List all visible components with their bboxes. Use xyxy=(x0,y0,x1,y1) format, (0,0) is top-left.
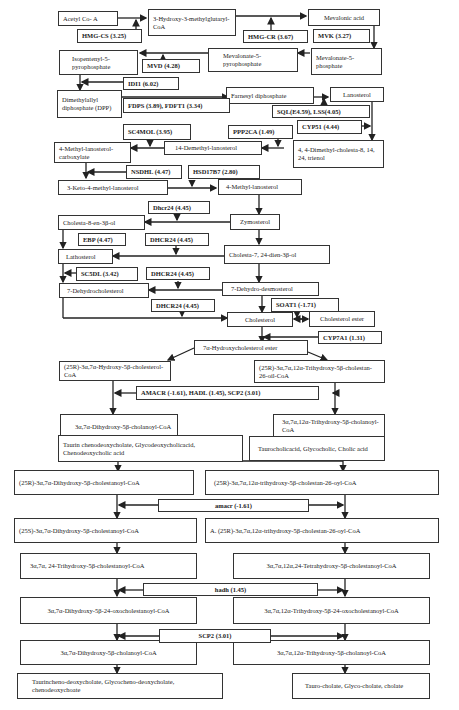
node-cholesta-7-24-dien: Cholesta-7, 24-dien-3β-ol xyxy=(224,245,330,264)
node-7-dehydro-desmosterol: 7-Dehydro-desmosterol xyxy=(222,282,319,296)
node-7-dehydrocholesterol: 7-Dehydrocholesterol xyxy=(59,283,149,298)
enzyme-mvk: MVK (3.27) xyxy=(313,29,370,43)
enzyme-sql-lss: SQL(E4.59), LSS(4.05) xyxy=(272,105,370,118)
enzyme-fdps-fdft1: FDPS (3.89), FDFT1 (3.34) xyxy=(123,98,230,113)
node-mevalonic-acid: Mevalonic acid xyxy=(308,9,380,26)
node-mevalonate-5-phosphate: Mevalonate-5-phosphate xyxy=(311,48,382,75)
node-dihydroxy-24-oxocholestanoyl-coa: 3α,7α-Dihydroxy-5β-24-oxocholestanoyl-Co… xyxy=(20,597,197,624)
node-25r-trihydroxy-cholestan-26-oil-coa: (25R)-3α,7α,12α-Trihydroxy-5β-cholestan-… xyxy=(254,360,385,383)
node-trihydroxy-24-cholestanoyl-coa: 3α,7α, 24-Trihydroxy-5β-cholestanoyl-CoA xyxy=(20,553,197,579)
enzyme-scp2: SCP2 (3.01) xyxy=(159,629,271,643)
enzyme-sc5dl: SC5DL (3.42) xyxy=(76,267,138,281)
enzyme-amacr-hadl-scp2: AMACR (-1.61), HADL (1.45), SCP2 (3.01) xyxy=(136,386,319,400)
node-dihydroxy-cholanoyl-coa-2: 3α,7α-Dihydroxy-5β-cholanoyl-CoA xyxy=(20,640,197,665)
node-hmg-coa: 3-Hydroxy-3-methylglutaryl-CoA xyxy=(148,9,236,36)
node-farnesyl-diphosphate: Farnesyl diphosphate xyxy=(226,87,314,104)
enzyme-hmg-cs: HMG-CS (3.25) xyxy=(77,29,142,43)
enzyme-amacr: amacr (-1.61) xyxy=(158,499,309,512)
node-taurin-chenodeoxycholate: Taurin chenodeoxycholate, Glycodeoxychol… xyxy=(58,435,243,462)
node-a-25r-trihydroxy-cholestan-26-oyl-coa: A. (25R)-3α,7α,12α-trihydroxy-5β-cholest… xyxy=(205,518,439,543)
node-25s-dihydroxy-cholestanoyl-coa: (25S)-3α,7α-Dihydroxy-5β-cholestanoyl-Co… xyxy=(14,518,197,543)
node-14-demethyl-lanosterol: 14-Demethyl-lanosterol xyxy=(164,141,262,155)
node-tauro-cholate: Tauro-cholate, Glyco-cholate, cholate xyxy=(292,673,430,699)
enzyme-sc4mol: SC4MOL (3.95) xyxy=(123,124,191,140)
node-zymosterol: Zymosterol xyxy=(230,214,280,230)
node-methyl-lanosterol-carboxylate: 4-Methyl-lanosterol-carboxylate xyxy=(54,142,131,163)
node-taurocholicacid: Taurocholicacid, Glycocholic, Cholic aci… xyxy=(249,436,385,461)
enzyme-ppp2ca: PPP2CA (1.49) xyxy=(228,125,293,139)
node-7a-hydroxycholesterol-ester: 7α-Hydroxycholesterol ester xyxy=(194,340,308,355)
node-dpp: Dimethylallyl diphosphate (DPP) xyxy=(57,90,122,118)
node-3-keto-4-methyl-lanosterol: 3-Keto-4-methyl-lanosterol xyxy=(58,180,168,195)
node-trihydroxy-cholanoyl-coa-1: 3α,7α,12α-Trihydroxy-5β-cholanoyl-CoA xyxy=(273,414,385,437)
node-lathosterol: Lathosterol xyxy=(58,249,113,264)
node-4-methyl-lanosterol: 4-Methyl-lanosterol xyxy=(218,179,302,195)
node-cholesterol-ester: Cholesterol ester xyxy=(309,311,375,327)
enzyme-hsd17b7: HSD17B7 (2.80) xyxy=(188,165,260,179)
enzyme-hmg-cr: HMG-CR (3.67) xyxy=(243,30,308,43)
node-25r-trihydroxy-cholestan-26-oyl-coa: (25R)-3α,7α,12α-trihydroxy-5β-cholestan-… xyxy=(205,470,439,495)
node-tetrahydroxy-cholestanoyl-coa: 3α,7α,12α,24-Tetrahydroxy-5β-cholestanoy… xyxy=(233,553,430,579)
node-mevalonate-5-pyrophosphate: Mevalonate-5-pyrophosphate xyxy=(208,48,298,72)
node-trihydroxy-cholanoyl-coa-2: 3α,7α,12α-Trihydroxy-5β-cholanoyl-CoA xyxy=(233,640,430,665)
node-taurocheno-deoxycholate: Taurincheno-deoxycholate, Glycocheno-deo… xyxy=(17,673,223,699)
node-trihydroxy-24-oxocholestanoyl-coa: 3α,7α,12α-Trihydroxy-5β-24-oxocholestano… xyxy=(233,597,430,624)
node-lanosterol: Lanosterol xyxy=(330,87,384,102)
node-cholesta-8-en: Cholesta-8-en-3β-ol xyxy=(58,215,145,230)
enzyme-dhcr24-d: DHCR24 (4.45) xyxy=(151,299,215,312)
enzyme-dhcr24-a: Dhcr24 (4.45) xyxy=(148,201,210,214)
enzyme-hadh: hadh (1.45) xyxy=(143,583,318,596)
node-dimethyl-cholesta-trienol: 4, 4-Dimethyl-cholesta-8, 14, 24, trieno… xyxy=(293,140,384,168)
node-acetyl-coa: Acetyl Co- A xyxy=(58,11,118,26)
node-cholesterol: Cholesterol xyxy=(227,312,293,327)
enzyme-dhcr24-b: DHCR24 (4.45) xyxy=(145,233,209,246)
enzyme-dhcr24-c: DHCR24 (4.45) xyxy=(146,267,210,280)
enzyme-ebp: EBP (4.47) xyxy=(78,233,126,246)
enzyme-mvd: MVD (4.28) xyxy=(142,59,200,73)
node-isopentenyl-pyrophosphate: Isopentenyl-5-pyrophosphate xyxy=(59,50,138,75)
enzyme-nsdhl: NSDHL (4.47) xyxy=(126,165,182,179)
enzyme-cyp7a1: CYP7A1 (1.31) xyxy=(318,331,382,344)
node-25r-dihydroxy-cholestanoyl-coa: (25R)-3α,7α-Dihydroxy-5β-cholestanoyl-Co… xyxy=(14,470,194,495)
enzyme-soat1: SOAT1 (-1.71) xyxy=(271,298,339,312)
node-25r-hydroxy-cholesterol-coa: (25R)-3α,7α-Hydroxy-5β-cholesterol-CoA xyxy=(59,361,171,381)
enzyme-cyp51: CYP51 (4.44) xyxy=(297,120,362,134)
enzyme-idi1: IDI1 (6.02) xyxy=(123,77,179,90)
